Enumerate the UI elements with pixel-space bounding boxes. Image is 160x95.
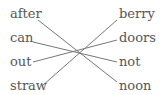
left-word-straw: straw — [10, 79, 47, 93]
right-word-not: not — [119, 55, 140, 69]
left-word-can: can — [10, 31, 33, 45]
line-straw-berry — [42, 20, 117, 86]
right-word-berry: berry — [119, 7, 155, 21]
right-word-doors: doors — [119, 31, 156, 45]
word-matching-diagram: after can out straw berry doors not noon — [0, 0, 160, 95]
right-word-noon: noon — [119, 79, 151, 93]
line-after-noon — [38, 20, 117, 82]
left-word-out: out — [10, 55, 31, 69]
left-word-after: after — [10, 7, 42, 21]
